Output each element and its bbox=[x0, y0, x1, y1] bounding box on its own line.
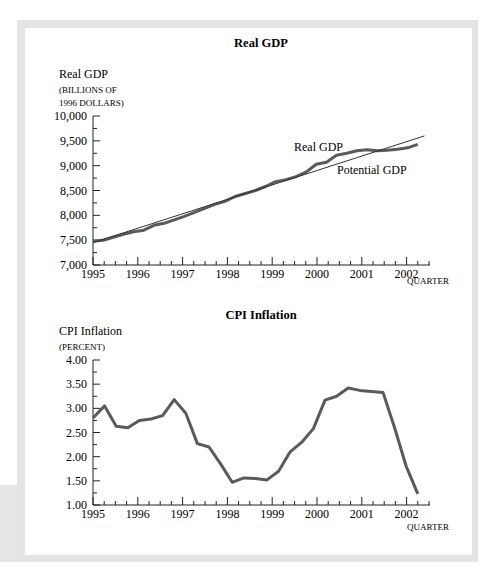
gdp-ylabel-line3: 1996 dollars) bbox=[59, 98, 124, 108]
gdp-xlabel: Quarter bbox=[407, 276, 449, 286]
x-tick-label: 2001 bbox=[350, 507, 374, 521]
x-tick-label: 1998 bbox=[215, 507, 239, 521]
x-tick-label: 1996 bbox=[126, 507, 150, 521]
y-tick-label: 9,000 bbox=[60, 159, 87, 173]
x-tick-label: 1995 bbox=[81, 267, 105, 281]
gdp-real-label: Real GDP bbox=[294, 140, 343, 154]
gdp-series bbox=[93, 136, 425, 243]
x-tick-label: 1995 bbox=[81, 507, 105, 521]
y-tick-label: 3.00 bbox=[66, 401, 87, 415]
y-tick-label: 8,000 bbox=[60, 208, 87, 222]
x-tick-label: 1999 bbox=[260, 267, 284, 281]
y-tick-label: 2.50 bbox=[66, 426, 87, 440]
cpi-ylabel-line1: CPI Inflation bbox=[59, 324, 122, 338]
charts-canvas: Real GDP Real GDP (billions of 1996 doll… bbox=[0, 0, 498, 575]
cpi-axes: 1.001.502.002.503.003.504.00199519961997… bbox=[66, 353, 430, 521]
y-tick-label: 4.00 bbox=[66, 353, 87, 367]
x-tick-label: 2000 bbox=[305, 507, 329, 521]
gdp-ylabel-line2: (billions of bbox=[59, 85, 117, 95]
y-tick-label: 10,000 bbox=[54, 109, 87, 123]
y-tick-label: 8,500 bbox=[60, 184, 87, 198]
gdp-ylabel-text: Real GDP bbox=[59, 67, 108, 81]
x-tick-label: 1996 bbox=[126, 267, 150, 281]
gdp-potential-label: Potential GDP bbox=[337, 163, 407, 177]
x-tick-label: 1997 bbox=[171, 267, 195, 281]
cpi-ylabel-line2: (percent) bbox=[59, 342, 105, 352]
y-tick-label: 7,500 bbox=[60, 233, 87, 247]
y-tick-label: 9,500 bbox=[60, 134, 87, 148]
y-tick-label: 1.50 bbox=[66, 474, 87, 488]
cpi-xlabel: Quarter bbox=[407, 522, 449, 532]
x-tick-label: 2000 bbox=[305, 267, 329, 281]
x-tick-label: 1997 bbox=[171, 507, 195, 521]
potential-gdp-line bbox=[93, 136, 425, 243]
cpi-chart-title: CPI Inflation bbox=[225, 308, 296, 322]
x-tick-label: 1999 bbox=[260, 507, 284, 521]
x-tick-label: 2002 bbox=[395, 507, 419, 521]
gdp-ylabel-line1: Real GDP bbox=[59, 67, 108, 81]
y-tick-label: 3.50 bbox=[66, 377, 87, 391]
x-tick-label: 1998 bbox=[215, 267, 239, 281]
cpi-series bbox=[93, 388, 418, 494]
cpi-inflation-line bbox=[93, 388, 418, 494]
y-tick-label: 2.00 bbox=[66, 450, 87, 464]
x-tick-label: 2001 bbox=[350, 267, 374, 281]
gdp-chart-title: Real GDP bbox=[234, 36, 288, 50]
